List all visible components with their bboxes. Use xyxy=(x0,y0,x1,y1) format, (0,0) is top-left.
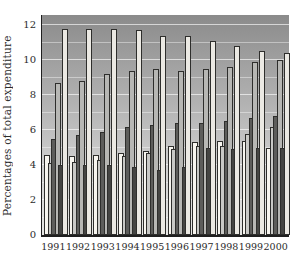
y-tick-label-8: 8 xyxy=(2,89,36,101)
gridline-12 xyxy=(42,24,289,25)
x-tick-label-1999: 1999 xyxy=(239,241,264,253)
bar-chart: Percentages of total expenditure 0246810… xyxy=(0,0,292,263)
bar-1992-series-6-pale-tall xyxy=(86,29,92,236)
y-tick-label-4: 4 xyxy=(2,159,36,171)
bar-1996-series-6-pale-tall xyxy=(185,36,191,236)
x-tick-label-1994: 1994 xyxy=(115,241,140,253)
bar-1999-series-6-pale-tall xyxy=(259,51,265,235)
bar-1993-series-6-pale-tall xyxy=(111,29,117,236)
y-tick-label-10: 10 xyxy=(2,54,36,66)
x-tick-label-1991: 1991 xyxy=(41,241,66,253)
bar-2000-series-6-pale-tall xyxy=(284,53,290,235)
plot-area xyxy=(41,15,289,237)
bar-1995-series-6-pale-tall xyxy=(160,36,166,236)
x-tick-label-2000: 2000 xyxy=(263,241,288,253)
x-tick-label-1993: 1993 xyxy=(90,241,115,253)
y-tick-label-12: 12 xyxy=(2,19,36,31)
x-tick-label-1996: 1996 xyxy=(165,241,190,253)
y-tick-label-2: 2 xyxy=(2,194,36,206)
bar-1997-series-6-pale-tall xyxy=(210,41,216,235)
y-tick-label-6: 6 xyxy=(2,124,36,136)
bar-1991-series-6-pale-tall xyxy=(62,29,68,236)
x-tick-label-1992: 1992 xyxy=(66,241,91,253)
x-tick-label-1998: 1998 xyxy=(214,241,239,253)
bar-1998-series-6-pale-tall xyxy=(234,46,240,235)
bar-1994-series-6-pale-tall xyxy=(136,30,142,235)
x-tick-label-1995: 1995 xyxy=(140,241,165,253)
x-tick-label-1997: 1997 xyxy=(189,241,214,253)
y-tick-label-0: 0 xyxy=(2,229,36,241)
